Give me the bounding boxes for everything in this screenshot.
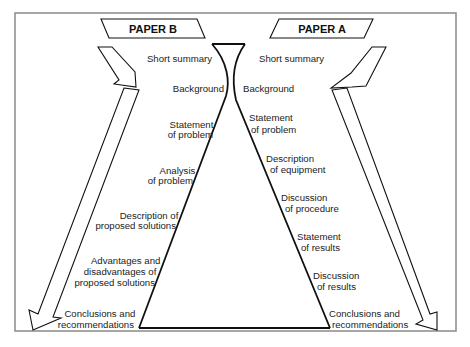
paper-b-title: PAPER B bbox=[129, 23, 177, 35]
section-label: Statement of results bbox=[297, 231, 343, 253]
section-label: Discussion of results bbox=[313, 270, 362, 292]
paper-b-header: PAPER B bbox=[101, 19, 205, 38]
paper-a-header: PAPER A bbox=[270, 19, 373, 38]
section-label: Conclusions and recommendations bbox=[329, 308, 408, 330]
section-label: Conclusions and recommendations bbox=[58, 308, 138, 330]
paper-structure-diagram: PAPER B PAPER A Short summary Background… bbox=[0, 0, 470, 347]
section-label: Short summary bbox=[147, 53, 212, 64]
section-label: Statement of problem bbox=[249, 112, 296, 135]
section-label: Background bbox=[173, 83, 224, 94]
section-label: Short summary bbox=[259, 53, 324, 64]
paper-a-title: PAPER A bbox=[298, 23, 346, 35]
section-label: Statement of problem bbox=[168, 119, 216, 140]
section-label: Background bbox=[243, 83, 294, 94]
